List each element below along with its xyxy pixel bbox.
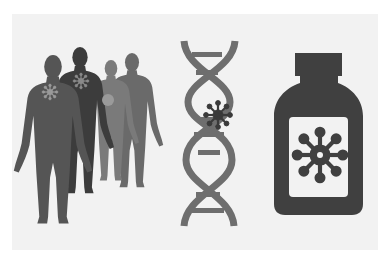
dna-helix-icon xyxy=(184,41,235,226)
medicine-bottle-icon xyxy=(274,53,363,215)
virus-icon xyxy=(204,101,233,130)
bottle-cap xyxy=(295,53,342,76)
people-group-icon xyxy=(14,47,163,224)
virus-marker-icon xyxy=(42,84,58,100)
illustration xyxy=(0,0,389,261)
highlight-spot xyxy=(102,94,114,106)
virus-marker-icon xyxy=(73,73,89,89)
